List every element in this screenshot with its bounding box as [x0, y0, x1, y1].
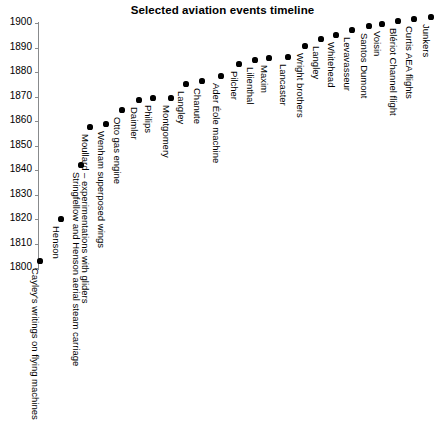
y-axis-tick-mark: [35, 48, 38, 49]
event-dot[interactable]: [302, 43, 307, 48]
event-dot[interactable]: [285, 54, 290, 59]
event-dot[interactable]: [266, 55, 271, 60]
event-label: Santos Dumont: [359, 33, 369, 98]
y-axis-tick-label: 1820: [10, 212, 32, 223]
event-dot[interactable]: [168, 95, 173, 100]
event-label: Daimler: [129, 107, 139, 140]
event-dot[interactable]: [87, 124, 92, 129]
y-axis-tick-label: 1890: [10, 41, 32, 52]
y-axis-tick-label: 1800: [10, 261, 32, 272]
plot-area: 1900189018801870185018601840183018201810…: [0, 0, 445, 440]
y-axis-tick-mark: [35, 244, 38, 245]
event-dot[interactable]: [58, 216, 63, 221]
event-dot[interactable]: [218, 73, 223, 78]
y-axis-tick-label: 1840: [10, 163, 32, 174]
y-axis-tick-mark: [35, 195, 38, 196]
event-label: Whitehead: [326, 42, 336, 87]
y-axis-tick-label: 1900: [10, 16, 32, 27]
event-label: Lancaster: [278, 64, 288, 106]
event-dot[interactable]: [183, 81, 188, 86]
y-axis-tick-label: 1830: [10, 188, 32, 199]
event-label: Maxim: [259, 65, 269, 93]
event-dot[interactable]: [333, 32, 338, 37]
event-dot[interactable]: [252, 57, 257, 62]
event-label: Ader Éole machine: [211, 83, 221, 163]
y-axis-tick-mark: [35, 146, 38, 147]
event-label: Henson: [51, 226, 61, 259]
event-dot[interactable]: [136, 97, 141, 102]
event-label: Blériot Channel flight: [388, 28, 398, 116]
event-label: Langley: [176, 91, 186, 124]
event-dot[interactable]: [37, 258, 42, 263]
y-axis-tick-label: 1850: [10, 139, 32, 150]
y-axis-tick-mark: [35, 72, 38, 73]
event-label: Curtis AEA flights: [404, 26, 414, 99]
event-dot[interactable]: [395, 18, 400, 23]
event-label: Lilienthal: [245, 67, 255, 105]
event-dot[interactable]: [366, 23, 371, 28]
y-axis-line: [38, 22, 39, 270]
event-label: Moullard – experimentations with gliders: [80, 134, 90, 304]
event-dot[interactable]: [349, 27, 354, 32]
event-dot[interactable]: [236, 61, 241, 66]
y-axis-tick-label: 1880: [10, 65, 32, 76]
aviation-timeline-chart: Selected aviation events timeline 190018…: [0, 0, 445, 440]
y-axis-tick-mark: [35, 23, 38, 24]
y-axis-tick-mark: [35, 219, 38, 220]
event-label: Cayley's writings on flying machines: [30, 268, 40, 420]
event-dot[interactable]: [103, 121, 108, 126]
event-dot[interactable]: [199, 78, 204, 83]
event-label: Otto gas engine: [112, 117, 122, 184]
event-dot[interactable]: [318, 36, 323, 41]
event-label: Wenham superposed wings: [96, 131, 106, 248]
event-dot[interactable]: [379, 21, 384, 26]
event-label: Voisin: [372, 31, 382, 56]
event-dot[interactable]: [119, 107, 124, 112]
y-axis-tick-label: 1860: [10, 114, 32, 125]
event-label: Levavasseur: [342, 37, 352, 91]
y-axis-tick-mark: [35, 170, 38, 171]
event-label: Langley: [311, 46, 321, 79]
event-label: Montgomery: [161, 105, 171, 158]
event-label: Wright brothers: [295, 53, 305, 118]
event-label: Pilcher: [229, 71, 239, 100]
event-label: Chanute: [192, 88, 202, 124]
event-label: Philips: [143, 105, 153, 133]
y-axis-tick-label: 1810: [10, 237, 32, 248]
event-dot[interactable]: [150, 95, 155, 100]
y-axis-tick-mark: [35, 121, 38, 122]
event-dot[interactable]: [411, 16, 416, 21]
y-axis-tick-label: 1870: [10, 90, 32, 101]
event-label: Junkers: [421, 24, 431, 57]
event-dot[interactable]: [428, 14, 433, 19]
y-axis-tick-mark: [35, 97, 38, 98]
